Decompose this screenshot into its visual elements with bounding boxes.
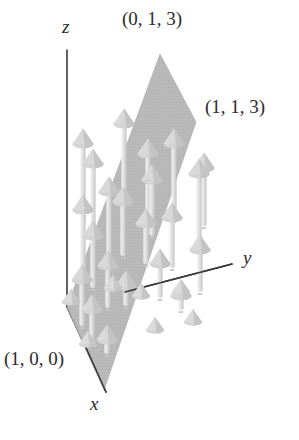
arrow-base — [157, 299, 162, 301]
axis-label-y: y — [243, 247, 251, 269]
arrow-base — [105, 309, 110, 311]
arrow-base — [149, 237, 154, 239]
arrow-base — [104, 355, 109, 357]
arrow-base — [201, 227, 206, 229]
arrow-base — [90, 289, 95, 291]
vector-field-canvas — [0, 0, 299, 440]
axis-label-x: x — [90, 393, 98, 415]
arrow-base — [143, 265, 148, 267]
arrow-base — [197, 293, 202, 295]
arrow-base — [123, 307, 128, 309]
arrow-base — [169, 269, 174, 271]
arrow-base — [120, 257, 125, 259]
point-label-1-0-0: (1, 0, 0) — [4, 348, 64, 370]
point-label-0-1-3: (0, 1, 3) — [122, 8, 182, 30]
arrow-base — [79, 327, 84, 329]
axis-label-z: z — [62, 16, 69, 38]
vector-field-figure: (0, 1, 3) (1, 1, 3) (1, 0, 0) z y x — [0, 0, 299, 440]
arrow-base — [178, 311, 183, 313]
point-label-1-1-3: (1, 1, 3) — [205, 96, 265, 118]
